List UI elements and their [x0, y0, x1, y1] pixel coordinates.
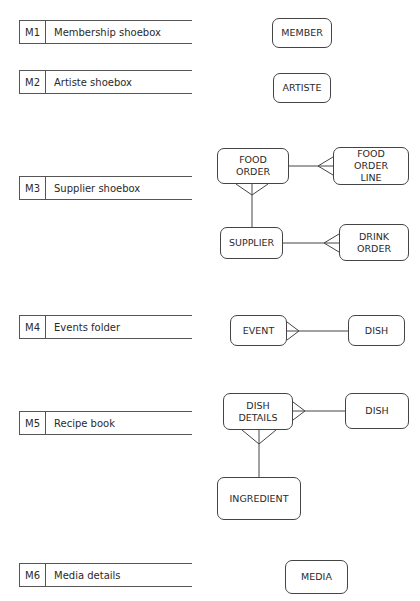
entity-food-order-line: FOOD ORDER LINE	[333, 147, 409, 185]
entity-dish: DISH	[345, 393, 409, 429]
entity-artiste: ARTISTE	[273, 73, 331, 103]
entity-member: MEMBER	[272, 18, 332, 48]
entity-food-order: FOOD ORDER	[217, 148, 289, 184]
entity-media: MEDIA	[285, 560, 348, 594]
entity-ingredient: INGREDIENT	[217, 477, 301, 520]
entity-dish: DISH	[348, 315, 405, 346]
entity-supplier: SUPPLIER	[220, 227, 283, 259]
entity-event: EVENT	[230, 315, 287, 346]
entity-dish-details: DISH DETAILS	[223, 393, 293, 430]
relationship-lines	[0, 0, 420, 601]
entity-drink-order: DRINK ORDER	[339, 224, 409, 261]
